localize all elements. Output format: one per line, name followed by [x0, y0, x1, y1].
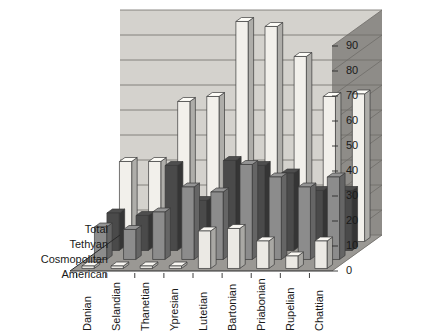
x-label-rupelian: Rupelian: [284, 288, 296, 331]
chart-3d-bar: Total Tethyan Cosmopolitan American Dani…: [0, 0, 442, 334]
y-tick-50: 50: [346, 140, 358, 151]
y-tick-30: 30: [346, 190, 358, 201]
x-label-priabonian: Priabonian: [255, 278, 267, 331]
x-label-bartonian: Bartonian: [226, 284, 238, 331]
x-label-ypresian: Ypresian: [168, 288, 180, 331]
y-tick-70: 70: [346, 90, 358, 101]
y-tick-40: 40: [346, 165, 358, 176]
y-tick-90: 90: [346, 40, 358, 51]
x-label-selandian: Selandian: [110, 282, 122, 331]
y-tick-80: 80: [346, 65, 358, 76]
y-tick-0: 0: [346, 265, 352, 276]
x-label-lutetian: Lutetian: [197, 292, 209, 331]
x-label-thanetian: Thanetian: [139, 282, 151, 331]
category-axis-labels: DanianSelandianThanetianYpresianLutetian…: [0, 0, 442, 334]
x-label-chattian: Chattian: [313, 290, 325, 331]
x-label-danian: Danian: [81, 296, 93, 331]
y-tick-60: 60: [346, 115, 358, 126]
y-tick-20: 20: [346, 215, 358, 226]
y-tick-10: 10: [346, 240, 358, 251]
